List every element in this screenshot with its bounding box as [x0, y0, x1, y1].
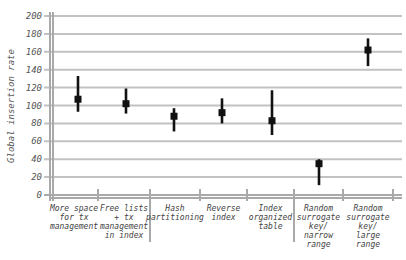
data-point [123, 100, 130, 107]
category-label-line: range [306, 240, 330, 249]
category-label-line: Random [304, 204, 333, 213]
category-label-line: Reverse [207, 204, 241, 213]
category-label: Reverseindex [207, 204, 241, 222]
data-point [75, 96, 82, 103]
y-tick-label: 40 [31, 154, 42, 164]
y-tick-label: 0 [37, 190, 42, 200]
category-label-line: Index [258, 204, 282, 213]
y-axis-label: Global insertion rate [6, 49, 16, 163]
y-tick-label: 160 [26, 47, 42, 57]
y-tick-label: 80 [31, 118, 42, 128]
category-label: Randomsurrogatekey/largerange [346, 204, 390, 249]
category-label-line: partitioning [145, 213, 204, 222]
y-tick-label: 60 [31, 136, 42, 146]
category-label-line: key/ [358, 222, 377, 231]
category-label-line: management [99, 222, 148, 231]
category-label: Hashpartitioning [145, 204, 204, 222]
category-label-line: key/ [309, 222, 328, 231]
data-marks [75, 38, 372, 185]
category-label: More spacefor txmanagement [49, 204, 98, 231]
category-label-line: Hash [164, 204, 184, 213]
y-tick-label: 200 [26, 11, 42, 21]
y-tick-label: 100 [26, 101, 42, 111]
category-label-line: Free lists [100, 204, 148, 213]
category-label-line: in index [105, 231, 144, 240]
y-tick-label: 180 [26, 29, 42, 39]
category-label-line: Random [354, 204, 383, 213]
category-labels: More spacefor txmanagementFree lists+ tx… [49, 204, 390, 249]
category-label-line: More space [49, 204, 98, 213]
data-point [219, 109, 226, 116]
y-tick-label: 140 [26, 65, 42, 75]
category-label: Randomsurrogatekey/narrowrange [297, 204, 341, 249]
category-label-line: range [356, 240, 380, 249]
y-tick-label: 120 [26, 83, 42, 93]
category-label-line: organized [249, 213, 293, 222]
category-label-line: surrogate [297, 213, 341, 222]
category-label: Indexorganizedtable [249, 204, 293, 231]
data-point [171, 113, 178, 120]
category-label-line: for tx [60, 213, 89, 222]
category-label-line: table [258, 222, 282, 231]
y-tick-label: 20 [31, 172, 42, 182]
data-point [316, 160, 323, 167]
category-label-line: narrow [304, 231, 334, 240]
category-label-line: + tx [114, 213, 133, 222]
category-label-line: large [356, 231, 380, 240]
category-label-line: index [211, 213, 235, 222]
category-label: Free lists+ txmanagementin index [99, 204, 148, 240]
data-point [365, 47, 372, 54]
chart: 020406080100120140160180200 Global inser… [0, 0, 406, 260]
category-label-line: management [49, 222, 98, 231]
category-label-line: surrogate [346, 213, 390, 222]
y-tick-labels: 020406080100120140160180200 [26, 11, 42, 200]
data-point [269, 117, 276, 124]
